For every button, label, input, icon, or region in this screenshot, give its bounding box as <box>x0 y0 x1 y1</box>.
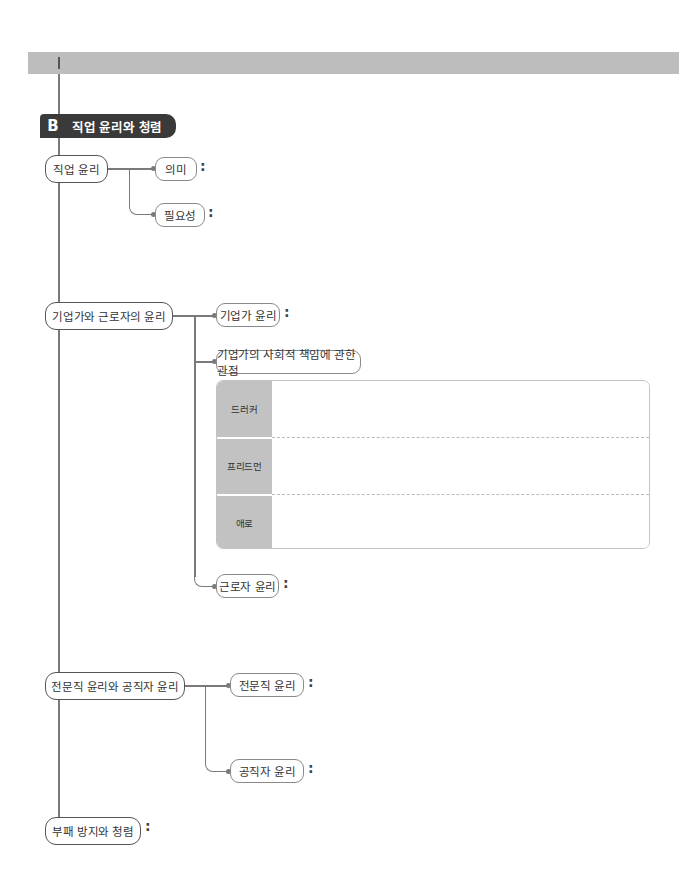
node-necessity: 필요성 <box>155 203 205 227</box>
node-anti-corruption: 부패 방지와 청렴 <box>45 817 141 845</box>
node-worker-ethics: 근로자 윤리 <box>216 574 279 598</box>
node-csr-views-label: 기업가의 사회적 책임에 관한 관점 <box>217 346 360 378</box>
node-entrepreneur-ethics: 기업가 윤리 <box>216 303 280 327</box>
node-worker-ethics-label: 근로자 윤리 <box>219 578 276 594</box>
node-entrepreneur-worker-ethics-label: 기업가와 근로자의 윤리 <box>52 308 166 324</box>
row-content-friedman[interactable] <box>272 437 649 493</box>
node-meaning: 의미 <box>155 157 197 181</box>
node-job-ethics-label: 직업 윤리 <box>53 161 99 177</box>
node-public-official-ethics: 공직자 윤리 <box>230 759 304 783</box>
csr-views-table: 드러커 프리드먼 애로 <box>216 380 650 549</box>
colon-anti-corruption: : <box>145 818 151 834</box>
colon-necessity: : <box>208 204 214 220</box>
node-job-ethics: 직업 윤리 <box>45 155 108 183</box>
node-professional-public-ethics-label: 전문직 윤리와 공직자 윤리 <box>51 678 179 694</box>
node-csr-views: 기업가의 사회적 책임에 관한 관점 <box>216 350 361 374</box>
row-label-arrow: 애로 <box>217 494 272 549</box>
main-trunk-line <box>58 74 60 836</box>
row-label-drucker: 드러커 <box>217 381 272 437</box>
section-title: 직업 윤리와 청렴 <box>66 114 176 138</box>
colon-worker-ethics: : <box>283 575 289 591</box>
row-content-drucker[interactable] <box>272 381 649 437</box>
connector-elbow <box>194 560 217 587</box>
row-content-arrow[interactable] <box>272 494 649 549</box>
table-row-friedman: 프리드먼 <box>217 437 649 493</box>
connector-elbow <box>205 685 231 772</box>
node-professional-public-ethics: 전문직 윤리와 공직자 윤리 <box>45 672 185 700</box>
node-necessity-label: 필요성 <box>164 207 196 223</box>
node-professional-ethics: 전문직 윤리 <box>230 673 304 697</box>
node-professional-ethics-label: 전문직 윤리 <box>239 677 296 693</box>
colon-entrepreneur-ethics: : <box>284 304 290 320</box>
header-tick <box>58 57 60 69</box>
section-letter: B <box>40 114 66 138</box>
branch-line <box>194 315 196 577</box>
connector-elbow <box>129 168 156 215</box>
header-band <box>28 52 679 74</box>
colon-meaning: : <box>200 158 206 174</box>
node-entrepreneur-worker-ethics: 기업가와 근로자의 윤리 <box>45 302 173 330</box>
row-label-friedman: 프리드먼 <box>217 437 272 493</box>
colon-public-official-ethics: : <box>308 760 314 776</box>
node-meaning-label: 의미 <box>165 161 186 177</box>
table-row-arrow: 애로 <box>217 494 649 549</box>
node-entrepreneur-ethics-label: 기업가 윤리 <box>220 307 277 323</box>
section-heading: B 직업 윤리와 청렴 <box>40 114 176 138</box>
table-row-drucker: 드러커 <box>217 381 649 437</box>
node-public-official-ethics-label: 공직자 윤리 <box>239 763 296 779</box>
colon-professional-ethics: : <box>308 674 314 690</box>
node-anti-corruption-label: 부패 방지와 청렴 <box>52 823 134 839</box>
